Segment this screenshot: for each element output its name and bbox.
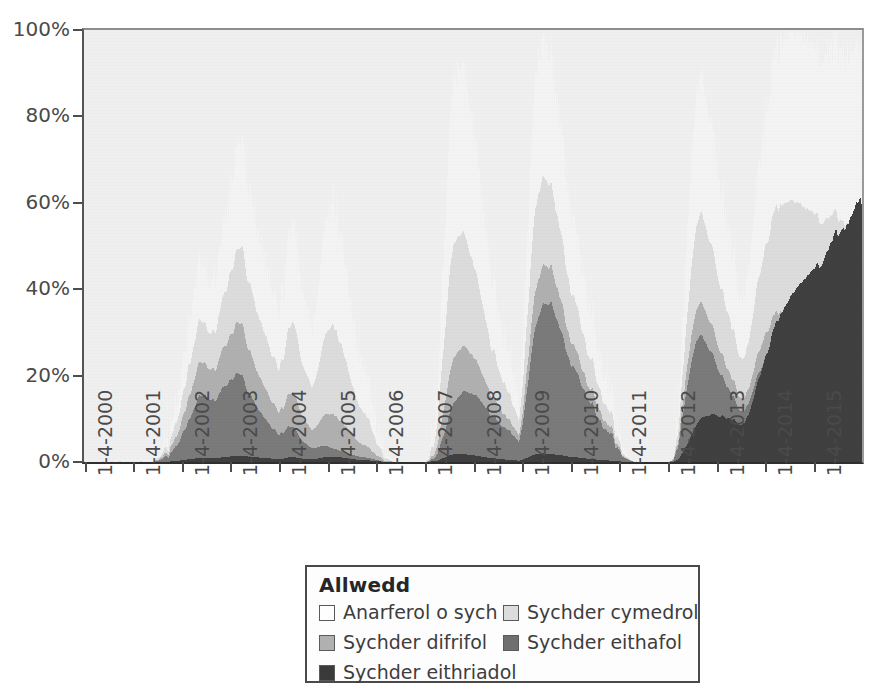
- legend-swatch-icon: [503, 605, 519, 621]
- legend-item[interactable]: Sychder eithafol: [503, 633, 682, 652]
- x-axis-tick: [425, 462, 427, 472]
- legend-swatch-icon: [319, 605, 335, 621]
- x-axis-tick-label: 1-4-2000: [94, 390, 116, 476]
- x-axis-tick-label: 1-4-2007: [434, 390, 456, 476]
- legend-swatch-icon: [319, 665, 335, 681]
- y-axis-tick-label: 100%: [2, 17, 70, 41]
- x-axis-tick-label: 1-4-2008: [483, 390, 505, 476]
- legend-item[interactable]: Anarferol o sych: [319, 603, 498, 622]
- legend-swatch-icon: [319, 635, 335, 651]
- x-axis-tick: [571, 462, 573, 472]
- legend-item[interactable]: Sychder cymedrol: [503, 603, 699, 622]
- x-axis-tick: [668, 462, 670, 472]
- x-axis-tick: [328, 462, 330, 472]
- legend-item-label: Sychder eithafol: [527, 633, 682, 652]
- y-axis-tick: [73, 375, 82, 377]
- x-axis-tick-label: 1-4-2006: [385, 390, 407, 476]
- legend-title: Allwedd: [319, 573, 410, 597]
- legend-item[interactable]: Sychder eithriadol: [319, 663, 517, 682]
- x-axis-tick-label: 1-4-2011: [628, 390, 650, 476]
- x-axis-tick-label: 1-4-2014: [774, 390, 796, 476]
- x-axis-tick-label: 1-4-2003: [239, 390, 261, 476]
- x-axis-tick-label: 1-4-2010: [580, 390, 602, 476]
- y-axis-tick-label: 0%: [2, 449, 70, 473]
- x-axis-tick-label: 1-4-2002: [191, 390, 213, 476]
- x-axis-tick-label: 1-4-2015: [823, 390, 845, 476]
- y-axis-tick-label: 80%: [2, 103, 70, 127]
- x-axis-tick: [230, 462, 232, 472]
- legend-item-label: Sychder cymedrol: [527, 603, 699, 622]
- x-axis-tick-label: 1-4-2001: [142, 390, 164, 476]
- y-axis-tick-label: 20%: [2, 363, 70, 387]
- legend-box: Allwedd Anarferol o sychSychder cymedrol…: [305, 565, 700, 683]
- y-axis-tick-label: 40%: [2, 276, 70, 300]
- chart-screenshot: 100%80%60%40%20%0% 1-4-20001-4-20011-4-2…: [0, 0, 874, 690]
- x-axis-tick-label: 1-4-2013: [726, 390, 748, 476]
- y-axis-tick: [73, 29, 82, 31]
- x-axis-tick: [376, 462, 378, 472]
- x-axis-tick: [522, 462, 524, 472]
- y-axis-tick: [73, 202, 82, 204]
- x-axis-tick: [279, 462, 281, 472]
- x-axis-tick: [182, 462, 184, 472]
- y-axis-tick: [73, 115, 82, 117]
- x-axis-tick: [765, 462, 767, 472]
- y-axis-tick: [73, 461, 82, 463]
- x-axis-tick-label: 1-4-2004: [288, 390, 310, 476]
- legend-item[interactable]: Sychder difrifol: [319, 633, 487, 652]
- x-axis-tick-label: 1-4-2005: [337, 390, 359, 476]
- x-axis-tick: [619, 462, 621, 472]
- legend-swatch-icon: [503, 635, 519, 651]
- x-axis-tick: [814, 462, 816, 472]
- x-axis-tick-label: 1-4-2009: [531, 390, 553, 476]
- x-axis-tick: [717, 462, 719, 472]
- x-axis-tick: [133, 462, 135, 472]
- x-axis-tick: [474, 462, 476, 472]
- x-axis-tick-label: 1-4-2012: [677, 390, 699, 476]
- legend-item-label: Sychder eithriadol: [343, 663, 517, 682]
- legend-item-label: Anarferol o sych: [343, 603, 498, 622]
- legend-item-label: Sychder difrifol: [343, 633, 487, 652]
- y-axis-tick: [73, 288, 82, 290]
- x-axis-tick: [85, 462, 87, 472]
- y-axis-tick-label: 60%: [2, 190, 70, 214]
